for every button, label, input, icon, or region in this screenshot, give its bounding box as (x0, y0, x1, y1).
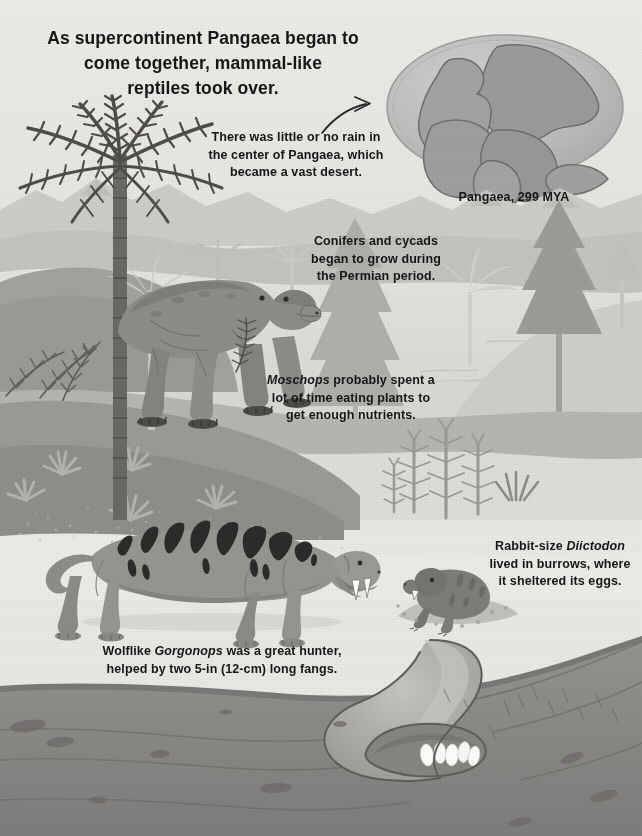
moschops-species-name: Moschops (267, 373, 330, 387)
moschops-eye-right (283, 296, 288, 301)
caption-conifers: Conifers and cycads began to grow during… (288, 233, 464, 286)
gorgonops-species-name: Gorgonops (155, 644, 223, 658)
caption-gorgonops-pre: Wolflike (102, 644, 154, 658)
caption-gorgonops: Wolflike Gorgonops was a great hunter, h… (76, 643, 368, 678)
caption-diictodon-pre: Rabbit-size (495, 539, 566, 553)
caption-diictodon: Rabbit-size Diictodon lived in burrows, … (482, 538, 638, 591)
illustration-page: As supercontinent Pangaea began to come … (0, 0, 642, 836)
gorgonops-eye (358, 561, 363, 566)
diictodon-eye (430, 578, 434, 582)
diictodon-nostril (404, 583, 406, 585)
moschops-eye-left (259, 295, 264, 300)
gorgonops-nostril (377, 570, 380, 573)
moschops-nostril (315, 311, 318, 314)
caption-globe-label: Pangaea, 299 MYA (440, 189, 588, 207)
caption-diictodon-rest: lived in burrows, where it sheltered its… (489, 557, 630, 589)
diictodon-species-name: Diictodon (566, 539, 625, 553)
caption-rain: There was little or no rain in the cente… (196, 129, 396, 182)
page-title: As supercontinent Pangaea began to come … (38, 26, 368, 101)
caption-moschops: Moschops probably spent a lot of time ea… (242, 372, 460, 425)
